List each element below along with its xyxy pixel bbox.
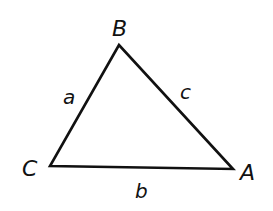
vertex-label-c: C xyxy=(22,156,38,181)
side-label-a: a xyxy=(63,85,75,109)
triangle-abc xyxy=(50,45,233,169)
triangle-diagram: B C A a c b xyxy=(0,0,273,211)
vertex-label-b: B xyxy=(112,16,127,41)
triangle-figure: B C A a c b xyxy=(0,0,273,211)
vertex-label-a: A xyxy=(238,160,255,185)
side-label-c: c xyxy=(180,80,191,104)
side-label-b: b xyxy=(135,179,148,203)
